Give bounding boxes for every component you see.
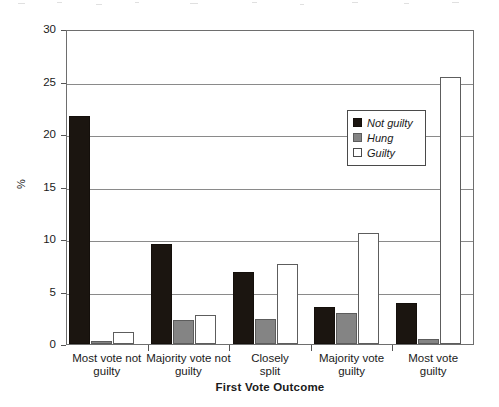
legend-item-label: Not guilty <box>367 117 413 129</box>
x-tick-mark <box>392 345 393 351</box>
scan-speck <box>57 2 62 3</box>
bar <box>173 320 194 344</box>
bar <box>113 332 134 344</box>
scan-speck <box>352 2 358 3</box>
bar <box>277 264 298 344</box>
legend: Not guiltyHungGuilty <box>347 110 426 166</box>
scan-speck <box>18 3 25 4</box>
scan-speck <box>300 4 304 5</box>
bar-group <box>396 31 461 344</box>
gray-square-icon <box>353 133 362 142</box>
bar-chart-figure: % 051015202530 Most vote notguiltyMajori… <box>0 0 499 407</box>
bar <box>314 307 335 344</box>
bar <box>69 116 90 344</box>
y-tick-label: 5 <box>28 287 56 298</box>
x-tick-label-line: guilty <box>384 365 482 378</box>
bar-group <box>151 31 216 344</box>
plot-area <box>66 30 474 345</box>
bar <box>255 319 276 344</box>
x-tick-label: Most voteguilty <box>384 352 482 378</box>
scan-speck <box>190 3 198 4</box>
legend-item: Hung <box>353 130 420 145</box>
bar <box>195 315 216 344</box>
scan-speck <box>96 4 102 5</box>
bar <box>358 233 379 344</box>
bar <box>418 339 439 344</box>
legend-item: Not guilty <box>353 115 420 130</box>
y-tick-label: 15 <box>28 182 56 193</box>
scan-speck <box>404 3 409 4</box>
bar <box>151 244 172 344</box>
bar-group <box>233 31 298 344</box>
scan-speck <box>452 2 459 3</box>
x-tick-label-line: Most vote <box>384 352 482 365</box>
bar-group <box>69 31 134 344</box>
y-axis-title: % <box>15 171 27 197</box>
white-square-icon <box>353 148 362 157</box>
y-tick-label: 10 <box>28 234 56 245</box>
y-tick-label: 25 <box>28 77 56 88</box>
y-tick-label: 30 <box>28 24 56 35</box>
legend-item: Guilty <box>353 145 420 160</box>
x-tick-mark <box>148 345 149 351</box>
bar <box>396 303 417 344</box>
bar <box>91 341 112 344</box>
x-tick-mark <box>311 345 312 351</box>
bar <box>336 313 357 345</box>
y-tick-mark <box>61 345 66 346</box>
x-axis-title: First Vote Outcome <box>66 381 474 393</box>
legend-item-label: Hung <box>367 132 393 144</box>
scan-noise-artifact <box>0 0 499 10</box>
scan-speck <box>135 2 139 3</box>
bar <box>233 272 254 344</box>
bar-group <box>314 31 379 344</box>
y-tick-label: 0 <box>28 339 56 350</box>
scan-speck <box>252 2 257 3</box>
legend-item-label: Guilty <box>367 147 395 159</box>
bar <box>440 77 461 344</box>
x-tick-mark <box>229 345 230 351</box>
black-square-icon <box>353 118 362 127</box>
y-tick-label: 20 <box>28 129 56 140</box>
